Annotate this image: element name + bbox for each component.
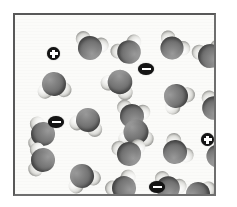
positive-ion-icon (201, 133, 214, 146)
charge-glyph-vertical-bar (52, 50, 55, 58)
water-molecule (25, 142, 62, 179)
solution-box (13, 13, 216, 196)
water-molecule (36, 66, 73, 103)
negative-ion-icon (48, 116, 64, 128)
water-molecule (59, 153, 104, 196)
oxygen-atom (158, 135, 192, 169)
hydrogen-atom (215, 97, 216, 117)
negative-ion-icon (149, 181, 165, 193)
negative-ion-icon (138, 63, 154, 75)
water-molecule (66, 98, 110, 142)
positive-ion-icon (47, 47, 60, 60)
figure-root: Water molecules surrounding dissolved po… (0, 0, 237, 207)
hydrogen-atom (189, 195, 209, 196)
charge-glyph-horizontal-bar (142, 68, 151, 71)
charge-glyph-horizontal-bar (52, 121, 61, 124)
charge-glyph-horizontal-bar (153, 186, 162, 189)
water-molecule (189, 35, 216, 77)
charge-glyph-vertical-bar (206, 136, 209, 144)
water-molecule (68, 26, 112, 70)
water-molecule (149, 25, 194, 70)
